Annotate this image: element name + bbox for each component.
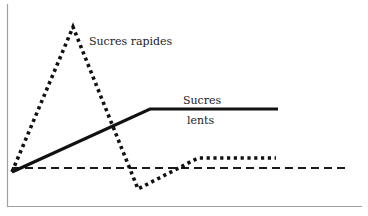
fast-sugars-label: Sucres rapides [89,35,173,48]
glycemic-diagram: Sucres rapides Sucres lents [0,0,368,216]
slow-sugars-label-line2: lents [187,114,215,127]
slow-sugars-label-line1: Sucres [183,94,222,107]
slow-sugars-line [12,109,278,172]
